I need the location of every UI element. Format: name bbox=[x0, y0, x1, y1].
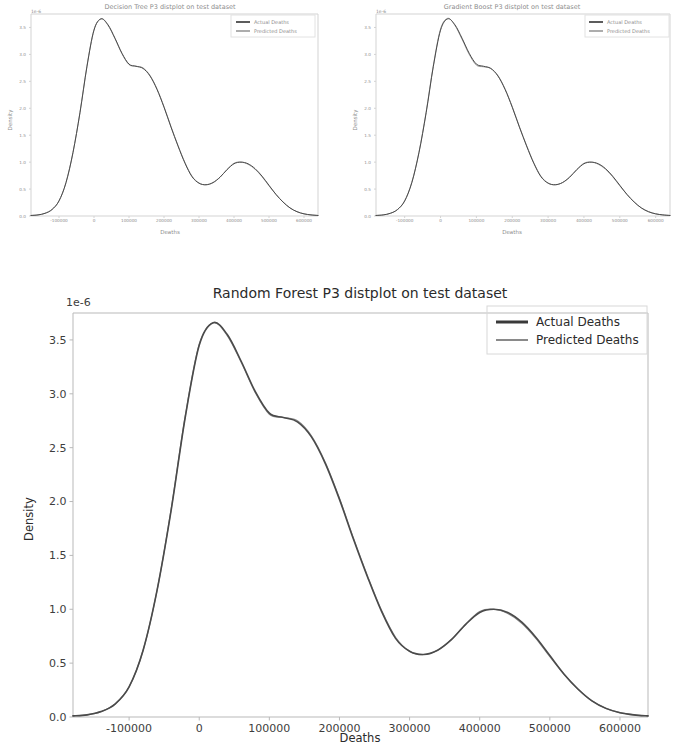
x-tick-labels: -100000010000020000030000040000050000060… bbox=[396, 218, 664, 223]
y-axis-offset-text: 1e-6 bbox=[376, 9, 386, 14]
y-axis-offset-text: 1e-6 bbox=[66, 296, 91, 309]
x-tick-label: 600000 bbox=[296, 218, 312, 223]
x-tick-label: 500000 bbox=[529, 722, 571, 735]
plot-axes bbox=[374, 14, 670, 218]
y-tick-labels: 0.00.51.01.52.02.53.03.5 bbox=[19, 25, 26, 219]
random-forest-plot: -100000010000020000030000040000050000060… bbox=[0, 272, 674, 752]
y-axis-label: Density bbox=[22, 497, 36, 541]
x-tick-label: 300000 bbox=[191, 218, 207, 223]
actual-deaths-curve bbox=[31, 19, 318, 216]
y-tick-label: 3.5 bbox=[19, 25, 26, 30]
y-tick-label: 0.5 bbox=[19, 187, 26, 192]
x-tick-label: 400000 bbox=[576, 218, 592, 223]
y-tick-label: 3.0 bbox=[19, 52, 26, 57]
chart-title: Gradient Boost P3 distplot on test datas… bbox=[444, 3, 581, 11]
y-axis-label: Density bbox=[352, 109, 359, 131]
y-tick-label: 1.0 bbox=[19, 160, 26, 165]
plot-axes bbox=[70, 313, 649, 721]
y-tick-labels: 0.00.51.01.52.02.53.03.5 bbox=[49, 334, 67, 724]
y-tick-label: 0.0 bbox=[19, 214, 26, 219]
x-tick-label: 600000 bbox=[599, 722, 641, 735]
y-tick-label: 2.0 bbox=[19, 106, 26, 111]
chart-title: Random Forest P3 distplot on test datase… bbox=[213, 285, 508, 301]
y-tick-label: 0.5 bbox=[49, 657, 67, 670]
legend: Actual Deaths Predicted Deaths bbox=[585, 15, 669, 37]
x-axis-label: Deaths bbox=[160, 229, 180, 235]
x-tick-label: 0 bbox=[196, 722, 203, 735]
y-tick-label: 3.0 bbox=[49, 388, 67, 401]
x-tick-labels: -100000010000020000030000040000050000060… bbox=[50, 218, 312, 223]
legend-label-actual: Actual Deaths bbox=[607, 19, 642, 25]
x-tick-label: 500000 bbox=[261, 218, 277, 223]
x-tick-label: 100000 bbox=[121, 218, 137, 223]
x-tick-label: 200000 bbox=[156, 218, 172, 223]
x-tick-label: 500000 bbox=[612, 218, 628, 223]
x-tick-label: -100000 bbox=[50, 218, 68, 223]
y-tick-label: 1.0 bbox=[364, 160, 371, 165]
x-tick-label: 600000 bbox=[648, 218, 664, 223]
predicted-deaths-curve bbox=[73, 323, 648, 716]
x-tick-label: 200000 bbox=[504, 218, 520, 223]
legend-label-predicted: Predicted Deaths bbox=[254, 28, 297, 34]
x-tick-label: -100000 bbox=[106, 722, 152, 735]
y-tick-label: 0.0 bbox=[49, 711, 67, 724]
actual-deaths-curve bbox=[73, 322, 648, 716]
y-tick-label: 2.5 bbox=[364, 79, 371, 84]
y-tick-label: 0.0 bbox=[364, 214, 371, 219]
legend: Actual Deaths Predicted Deaths bbox=[231, 15, 315, 37]
axes-spines bbox=[31, 14, 318, 216]
predicted-deaths-curve bbox=[376, 18, 670, 215]
x-tick-label: 100000 bbox=[468, 218, 484, 223]
x-axis-label: Deaths bbox=[340, 731, 381, 745]
legend-label-actual: Actual Deaths bbox=[536, 315, 620, 329]
axes-spines bbox=[376, 14, 670, 216]
y-tick-label: 2.0 bbox=[49, 495, 67, 508]
y-tick-labels: 0.00.51.01.52.02.53.03.5 bbox=[364, 25, 371, 219]
legend-label-predicted: Predicted Deaths bbox=[536, 333, 639, 347]
y-tick-label: 3.5 bbox=[364, 25, 371, 30]
y-tick-label: 3.0 bbox=[364, 52, 371, 57]
y-tick-label: 1.5 bbox=[49, 549, 67, 562]
decision-tree-distplot-figure: -100000010000020000030000040000050000060… bbox=[0, 0, 340, 240]
x-tick-marks bbox=[129, 717, 620, 721]
x-axis-label: Deaths bbox=[502, 229, 522, 235]
gradient-boost-plot: -100000010000020000030000040000050000060… bbox=[340, 0, 674, 240]
y-tick-marks bbox=[70, 340, 74, 717]
y-tick-label: 2.5 bbox=[19, 79, 26, 84]
plot-axes bbox=[29, 14, 318, 218]
y-tick-label: 3.5 bbox=[49, 334, 67, 347]
x-tick-label: 100000 bbox=[248, 722, 290, 735]
y-tick-label: 1.0 bbox=[49, 603, 67, 616]
x-tick-label: 300000 bbox=[389, 722, 431, 735]
x-tick-label: 400000 bbox=[226, 218, 242, 223]
x-tick-label: 400000 bbox=[459, 722, 501, 735]
y-tick-label: 2.0 bbox=[364, 106, 371, 111]
y-tick-label: 0.5 bbox=[364, 187, 371, 192]
x-tick-label: 0 bbox=[439, 218, 442, 223]
x-tick-label: 300000 bbox=[540, 218, 556, 223]
legend-label-predicted: Predicted Deaths bbox=[607, 28, 650, 34]
legend-label-actual: Actual Deaths bbox=[254, 19, 289, 25]
random-forest-distplot-figure: -100000010000020000030000040000050000060… bbox=[0, 272, 674, 752]
predicted-deaths-curve bbox=[31, 19, 318, 216]
y-axis-label: Density bbox=[7, 109, 14, 131]
y-axis-offset-text: 1e-6 bbox=[31, 9, 41, 14]
axes-spines bbox=[73, 313, 648, 717]
chart-title: Decision Tree P3 distplot on test datase… bbox=[104, 3, 236, 11]
actual-deaths-curve bbox=[376, 19, 670, 216]
y-tick-label: 1.5 bbox=[364, 133, 371, 138]
gradient-boost-distplot-figure: -100000010000020000030000040000050000060… bbox=[340, 0, 674, 240]
x-tick-label: -100000 bbox=[396, 218, 414, 223]
y-tick-label: 2.5 bbox=[49, 442, 67, 455]
y-tick-label: 1.5 bbox=[19, 133, 26, 138]
decision-tree-plot: -100000010000020000030000040000050000060… bbox=[0, 0, 340, 240]
x-tick-label: 0 bbox=[93, 218, 96, 223]
